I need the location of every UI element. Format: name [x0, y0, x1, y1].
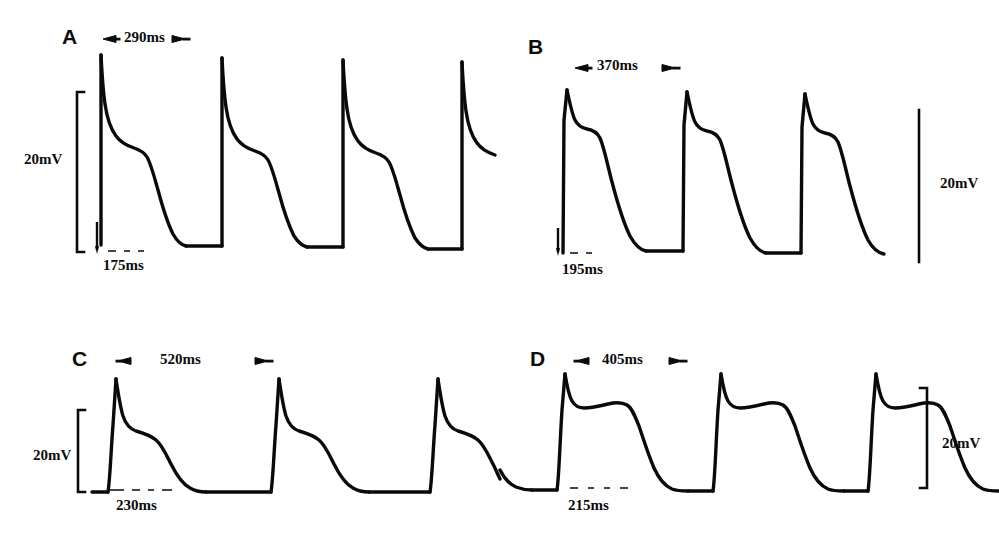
- panel-b-trace: [500, 0, 999, 300]
- figure-canvas: A 290ms 20mV 175ms: [0, 0, 999, 542]
- panel-c: C 520ms 20mV 230ms: [0, 330, 500, 542]
- panel-d-trace: [500, 330, 999, 542]
- panel-a-trace: [0, 0, 500, 300]
- panel-c-trace: [0, 330, 500, 542]
- panel-d: D 405ms 20mV 215ms: [500, 330, 999, 542]
- panel-a: A 290ms 20mV 175ms: [0, 0, 500, 300]
- panel-b: B 370ms 20mV 195ms: [500, 0, 999, 300]
